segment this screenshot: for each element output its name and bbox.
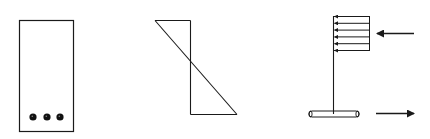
rebar-icon: [56, 113, 63, 120]
cross-section-panel: [20, 21, 74, 132]
rebar-icon: [43, 113, 50, 120]
rebars: [29, 113, 63, 120]
stress-arrows: [335, 17, 370, 51]
rebar-icon: [29, 113, 36, 120]
stress-block-panel: [309, 16, 414, 117]
strain-profile-line: [155, 21, 237, 115]
strain-diagram-panel: [155, 21, 237, 115]
beam-analysis-diagram: [0, 0, 430, 139]
stress-block-outline: [334, 17, 370, 51]
